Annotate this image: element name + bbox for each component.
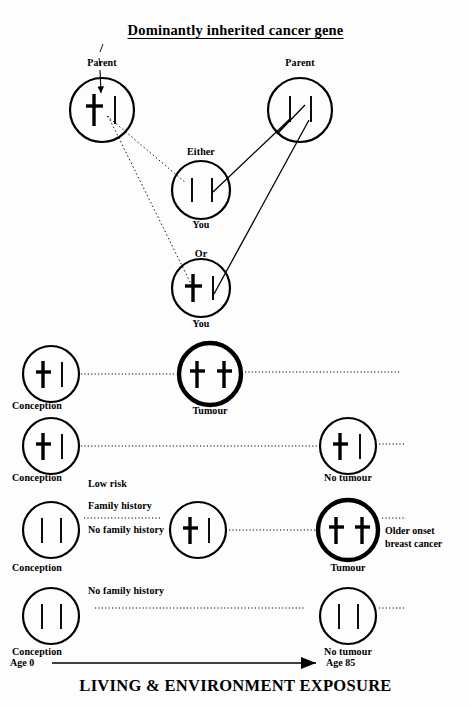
row-1-left-label: Conception [12, 400, 62, 412]
row-3-right-label: Tumour [330, 562, 365, 574]
row-2-right-cell [320, 418, 376, 474]
row-2-left-cell [23, 418, 79, 474]
footer-title: LIVING & ENVIRONMENT EXPOSURE [79, 676, 391, 696]
either-label: Either [187, 146, 215, 158]
row-4-note-no-family-history: No family history [88, 585, 164, 597]
parent-left-label: Parent [87, 57, 116, 69]
row-3-left-cell [23, 502, 79, 558]
row-3-mid-cell [170, 502, 226, 558]
row-2-left-label: Conception [12, 472, 62, 484]
row-3-note-low-risk: Low risk [88, 478, 127, 490]
diagram-canvas: Dominantly inherited cancer gene [0, 0, 471, 706]
row-3-right-note: Older onset breast cancer [385, 524, 442, 550]
you-label-2: You [193, 318, 210, 330]
row-3-note-family-history: Family history [88, 500, 152, 512]
parent-right-label: Parent [285, 57, 314, 69]
age-end-label: Age 85 [326, 657, 355, 668]
row-3-note-no-family-history: No family history [88, 524, 164, 536]
row-2-right-label: No tumour [324, 472, 372, 484]
row-3-right-note-line1: Older onset [385, 524, 442, 537]
row-3-right-cell [318, 500, 378, 560]
either-you-cell [172, 161, 230, 219]
row-1-mid-label: Tumour [192, 405, 227, 417]
you-label-1: You [193, 219, 210, 231]
age-start-label: Age 0 [10, 657, 34, 668]
row-1-mid-cell [179, 343, 241, 405]
row-4-right-cell [320, 588, 376, 644]
or-label: Or [195, 248, 207, 260]
or-you-cell [172, 259, 230, 317]
row-3-right-note-line2: breast cancer [385, 537, 442, 550]
row-1-left-cell [23, 346, 79, 402]
row-4-left-cell [23, 588, 79, 644]
diagram-vector-layer [0, 0, 471, 706]
parent-left-cell [70, 78, 134, 142]
row-3-left-label: Conception [12, 562, 62, 574]
